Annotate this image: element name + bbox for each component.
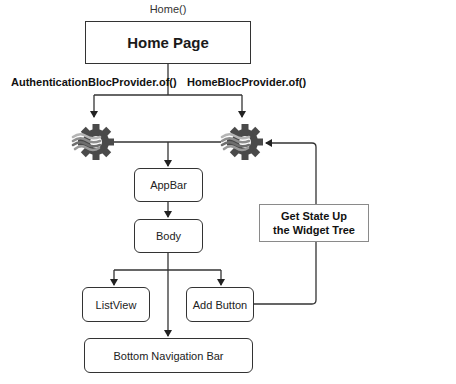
appbar-node: AppBar xyxy=(134,168,203,202)
add-button-node: Add Button xyxy=(186,287,254,322)
home-page-node: Home Page xyxy=(85,21,251,64)
home-page-label: Home Page xyxy=(127,34,209,51)
note-line-2: the Widget Tree xyxy=(273,223,355,237)
listview-node: ListView xyxy=(82,287,150,322)
body-node: Body xyxy=(134,219,203,253)
appbar-label: AppBar xyxy=(150,179,187,191)
auth-bloc-provider-label: AuthenticationBlocProvider.of() xyxy=(11,76,177,88)
add-button-label: Add Button xyxy=(193,299,247,311)
home-constructor-caption: Home() xyxy=(128,3,208,15)
bottom-navigation-bar-label: Bottom Navigation Bar xyxy=(113,350,223,362)
home-bloc-provider-label: HomeBlocProvider.of() xyxy=(187,76,306,88)
listview-label: ListView xyxy=(96,299,137,311)
auth-bloc-gear-icon xyxy=(70,120,114,164)
note-line-1: Get State Up xyxy=(273,209,355,223)
get-state-up-note: Get State Up the Widget Tree xyxy=(259,204,369,242)
home-bloc-gear-icon xyxy=(219,120,263,164)
body-label: Body xyxy=(156,230,181,242)
bottom-navigation-bar-node: Bottom Navigation Bar xyxy=(84,338,253,373)
